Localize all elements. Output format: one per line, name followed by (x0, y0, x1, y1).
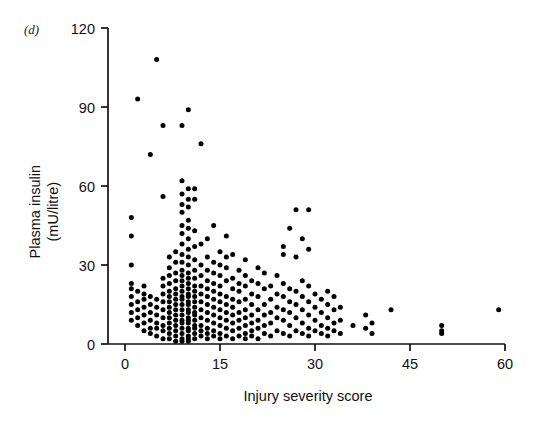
data-point (154, 313, 159, 318)
data-point (161, 123, 166, 128)
data-point (237, 299, 242, 304)
data-point (173, 270, 178, 275)
data-point (281, 294, 286, 299)
data-point (287, 334, 292, 339)
data-point (306, 247, 311, 252)
data-point (306, 334, 311, 339)
data-point (154, 305, 159, 310)
data-point (306, 299, 311, 304)
data-point (186, 255, 191, 260)
data-point (224, 255, 229, 260)
data-point (161, 299, 166, 304)
data-point (205, 310, 210, 315)
data-point (218, 263, 223, 268)
data-point (135, 299, 140, 304)
data-points (129, 57, 501, 344)
data-point (262, 331, 267, 336)
data-point (211, 305, 216, 310)
data-point (180, 178, 185, 183)
data-point (287, 323, 292, 328)
data-point (186, 236, 191, 241)
data-point (173, 328, 178, 333)
data-point (205, 236, 210, 241)
data-point (294, 289, 299, 294)
data-point (332, 307, 337, 312)
data-point (224, 318, 229, 323)
data-point (211, 270, 216, 275)
data-point (135, 289, 140, 294)
data-point (224, 334, 229, 339)
data-point (167, 315, 172, 320)
data-point (173, 302, 178, 307)
data-point (186, 107, 191, 112)
data-point (129, 215, 134, 220)
data-point (129, 294, 134, 299)
data-point (199, 323, 204, 328)
data-point (173, 297, 178, 302)
data-point (167, 299, 172, 304)
data-point (192, 310, 197, 315)
data-point (224, 302, 229, 307)
data-point (142, 305, 147, 310)
data-point (262, 286, 267, 291)
data-point (167, 255, 172, 260)
data-point (167, 320, 172, 325)
data-point (249, 334, 254, 339)
data-point (230, 320, 235, 325)
data-point (332, 320, 337, 325)
data-point (173, 318, 178, 323)
data-point (389, 307, 394, 312)
data-point (262, 313, 267, 318)
data-point (211, 260, 216, 265)
data-point (135, 307, 140, 312)
data-point (173, 323, 178, 328)
data-point (211, 223, 216, 228)
data-point (154, 334, 159, 339)
data-point (300, 236, 305, 241)
data-point (306, 284, 311, 289)
data-point (180, 278, 185, 283)
data-point (224, 234, 229, 239)
data-point (256, 294, 261, 299)
data-point (129, 318, 134, 323)
data-point (256, 265, 261, 270)
data-point (262, 323, 267, 328)
data-point (186, 334, 191, 339)
data-point (363, 326, 368, 331)
data-point (192, 294, 197, 299)
data-point (325, 289, 330, 294)
data-point (218, 323, 223, 328)
data-point (294, 315, 299, 320)
data-point (192, 197, 197, 202)
data-point (218, 273, 223, 278)
data-point (218, 291, 223, 296)
data-point (294, 302, 299, 307)
data-point (211, 289, 216, 294)
data-point (192, 257, 197, 262)
data-point (256, 326, 261, 331)
data-point (224, 326, 229, 331)
data-point (186, 315, 191, 320)
data-point (224, 265, 229, 270)
data-point (224, 294, 229, 299)
data-point (262, 270, 267, 275)
data-point (243, 297, 248, 302)
data-point (180, 336, 185, 341)
data-point (218, 299, 223, 304)
data-point (129, 302, 134, 307)
data-point (180, 289, 185, 294)
data-point (186, 205, 191, 210)
data-point (129, 263, 134, 268)
data-point (243, 336, 248, 341)
data-point (275, 328, 280, 333)
data-point (186, 226, 191, 231)
data-point (294, 328, 299, 333)
data-point (135, 97, 140, 102)
data-point (199, 291, 204, 296)
data-point (243, 284, 248, 289)
data-point (199, 334, 204, 339)
data-point (211, 281, 216, 286)
data-point (325, 334, 330, 339)
data-point (173, 260, 178, 265)
data-point (218, 331, 223, 336)
